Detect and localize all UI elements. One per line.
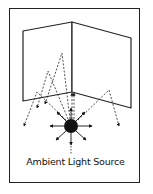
arrow-down-right (76, 131, 86, 140)
light-source (64, 119, 78, 133)
arrow-up-left (57, 112, 66, 121)
diagram-caption: Ambient Light Source (9, 156, 142, 167)
arrow-up-right (76, 112, 85, 121)
left-wall (23, 22, 72, 101)
arrow-down-left (56, 131, 66, 140)
right-wall (72, 22, 131, 108)
walls (23, 22, 131, 108)
